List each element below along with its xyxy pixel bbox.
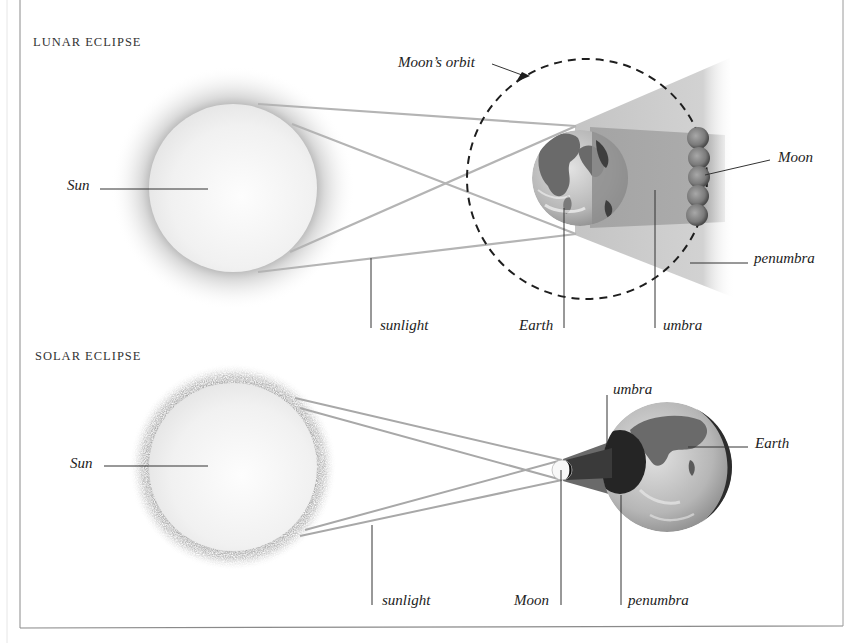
solar-earth-label: Earth [755, 436, 789, 451]
lunar-umbra-label: umbra [663, 318, 702, 333]
diagram-canvas [0, 0, 860, 643]
solar-sunlight-label: sunlight [382, 593, 430, 608]
solar-sun-label: Sun [70, 456, 93, 471]
solar-sun [149, 383, 317, 551]
lunar-eclipse-diagram [100, 58, 770, 328]
eclipse-diagram: LUNAR ECLIPSE Sun Moon’s orbit Moon penu… [0, 0, 860, 643]
solar-moon-label: Moon [514, 593, 549, 608]
moons-orbit-label: Moon’s orbit [398, 55, 475, 70]
solar-penumbra-label: penumbra [628, 593, 689, 608]
solar-earth [594, 402, 765, 532]
solar-eclipse-title: SOLAR ECLIPSE [35, 350, 141, 363]
solar-eclipse-diagram [104, 363, 765, 605]
lunar-moons [686, 127, 710, 226]
lunar-sunlight-label: sunlight [380, 318, 428, 333]
solar-umbra-label: umbra [613, 382, 652, 397]
lunar-penumbra-label: penumbra [754, 251, 815, 266]
lunar-eclipse-title: LUNAR ECLIPSE [33, 36, 142, 49]
lunar-sun-label: Sun [67, 178, 90, 193]
solar-moon [552, 460, 572, 480]
lunar-earth-label: Earth [519, 318, 553, 333]
lunar-moon-label: Moon [778, 150, 813, 165]
lunar-sun [149, 104, 317, 272]
